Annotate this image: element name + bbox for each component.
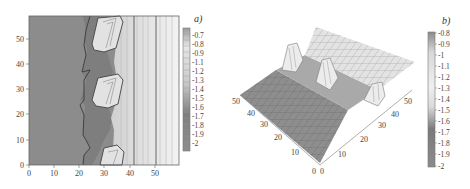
- cb-a-label-2: -0.9: [192, 49, 204, 58]
- surface-plot-b: 50 40 30 20 10 0 0 10 20 30 40 50: [232, 27, 415, 176]
- figure: 0 10 20 30 40 50 0 10 20 30 40 50 -0.7 -…: [0, 0, 470, 189]
- y-tick-b-20: 20: [274, 133, 282, 142]
- cb-b-label-8: -1.6: [438, 117, 450, 126]
- cb-a-label-5: -1.3: [192, 76, 204, 85]
- cb-a-label-6: -1.4: [192, 85, 204, 94]
- x-tick-a-30: 30: [100, 169, 108, 178]
- panel-label-a: a): [194, 13, 203, 25]
- y-tick-a-0: 0: [20, 161, 24, 170]
- cb-b-label-4: -1.2: [438, 73, 450, 82]
- x-tick-b-50: 50: [404, 97, 412, 106]
- cb-b-label-9: -1.7: [438, 128, 450, 137]
- x-tick-b-0: 0: [320, 167, 324, 176]
- x-tick-a-20: 20: [75, 169, 83, 178]
- y-tick-a-50: 50: [16, 35, 24, 44]
- panel-label-b: b): [442, 15, 451, 27]
- contour-plot-a: 0 10 20 30 40 50 0 10 20 30 40 50: [16, 16, 179, 178]
- cb-b-label-7: -1.5: [438, 106, 450, 115]
- cb-b-label-11: -1.9: [438, 150, 450, 159]
- cb-b-label-12: -2: [438, 162, 444, 171]
- y-tick-a-10: 10: [16, 136, 24, 145]
- cb-a-label-3: -1.1: [192, 58, 204, 67]
- x-tick-b-30: 30: [378, 121, 386, 130]
- cb-a-label-0: -0.7: [192, 31, 204, 40]
- cb-b-label-5: -1.3: [438, 84, 450, 93]
- y-tick-b-30: 30: [260, 120, 268, 129]
- cb-a-label-11: -1.9: [192, 130, 204, 139]
- cb-a-label-7: -1.5: [192, 94, 204, 103]
- cb-b-label-0: -0.8: [438, 29, 450, 38]
- cb-a-label-1: -0.8: [192, 40, 204, 49]
- cb-b-label-3: -1.1: [438, 62, 450, 71]
- bulge-bottom: [100, 145, 124, 165]
- cb-b-label-2: -1: [438, 51, 444, 60]
- x-tick-a-10: 10: [50, 169, 58, 178]
- y-tick-b-0: 0: [312, 167, 316, 176]
- cb-b-label-1: -0.9: [438, 40, 450, 49]
- y-tick-a-20: 20: [16, 110, 24, 119]
- x-tick-a-40: 40: [126, 169, 134, 178]
- cb-a-label-4: -1.2: [192, 67, 204, 76]
- x-tick-b-10: 10: [338, 150, 346, 159]
- cb-b-label-10: -1.8: [438, 139, 450, 148]
- cb-a-label-12: -2: [192, 139, 198, 148]
- y-tick-b-50: 50: [232, 97, 240, 106]
- cb-a-label-8: -1.6: [192, 103, 204, 112]
- y-tick-a-30: 30: [16, 85, 24, 94]
- colorbar-a: -0.7 -0.8 -0.9 -1.1 -1.2 -1.3 -1.4 -1.5 …: [183, 28, 204, 151]
- colorbar-b: -0.8 -0.9 -1 -1.1 -1.2 -1.3 -1.4 -1.5 -1…: [428, 29, 450, 171]
- cb-a-label-10: -1.8: [192, 121, 204, 130]
- x-tick-a-50: 50: [151, 169, 159, 178]
- y-tick-b-10: 10: [291, 148, 299, 157]
- cb-b-label-6: -1.4: [438, 95, 450, 104]
- x-tick-b-40: 40: [391, 110, 399, 119]
- y-tick-a-40: 40: [16, 60, 24, 69]
- cb-a-label-9: -1.7: [192, 112, 204, 121]
- y-tick-b-40: 40: [247, 109, 255, 118]
- x-tick-a-0: 0: [27, 169, 31, 178]
- x-tick-b-20: 20: [360, 135, 368, 144]
